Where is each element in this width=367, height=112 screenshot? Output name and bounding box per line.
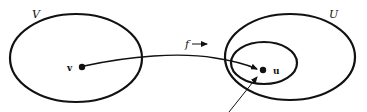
diagram-canvas: V U v u f <box>0 0 367 112</box>
set-v-ellipse <box>10 14 142 102</box>
pointer-arrow <box>229 77 257 112</box>
point-u-label: u <box>273 66 280 76</box>
set-u-label: U <box>329 8 339 21</box>
set-v-label: V <box>32 8 41 21</box>
point-v-dot <box>79 64 85 70</box>
mapping-label: f <box>184 38 191 51</box>
set-mapping-diagram: V U v u f <box>0 0 367 112</box>
point-v-label: v <box>66 63 73 73</box>
set-u-ellipse <box>225 14 355 100</box>
point-u-dot <box>260 67 266 73</box>
